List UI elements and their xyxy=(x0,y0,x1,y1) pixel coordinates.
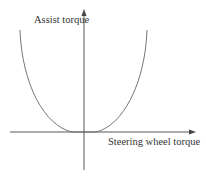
x-axis-label: Steering wheel torque xyxy=(108,136,200,147)
x-axis-arrow-icon xyxy=(189,130,196,135)
chart-canvas xyxy=(0,0,206,178)
y-axis-label: Assist torque xyxy=(34,14,89,25)
assist-curve xyxy=(20,30,147,132)
